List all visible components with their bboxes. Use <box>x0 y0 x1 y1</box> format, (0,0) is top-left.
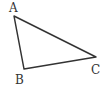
triangle-diagram: A B C <box>0 0 103 95</box>
triangle-abc <box>14 16 96 69</box>
vertex-label-c: C <box>91 63 100 77</box>
vertex-label-b: B <box>15 73 24 87</box>
vertex-label-a: A <box>8 1 18 15</box>
